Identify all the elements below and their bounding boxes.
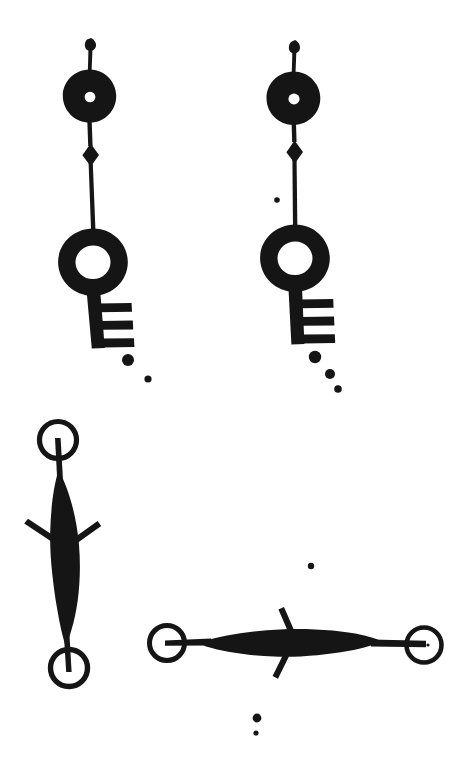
key-bow-ring — [58, 229, 128, 296]
figure-pendant-key-right — [260, 40, 335, 345]
key-bow-ring — [260, 225, 330, 292]
dot-key-right-small — [334, 385, 342, 393]
key-bit-tooth-2 — [100, 321, 133, 330]
finial-rod — [88, 48, 93, 73]
connector-rod — [292, 121, 297, 142]
figure-pendant-key-left — [58, 38, 134, 349]
figure-spindle-vertical — [24, 422, 101, 687]
dot-lower-large — [253, 714, 262, 723]
key-bit-tooth-3 — [102, 338, 135, 347]
dot-key-left-large — [122, 354, 134, 366]
finial-rod — [292, 51, 297, 76]
figure-spindle-horizontal — [150, 607, 442, 679]
dot-lower-small — [253, 730, 258, 735]
dot-key-right-large — [309, 351, 321, 363]
disc-piercing — [85, 92, 96, 102]
dot-key-right-stem — [274, 197, 280, 203]
key-stem — [89, 163, 96, 234]
dot-key-left-small — [144, 375, 151, 382]
key-bit-tooth-1 — [98, 303, 132, 312]
key-bit-tooth-3 — [302, 334, 335, 343]
dot-center-field — [308, 563, 314, 569]
diamond-bead-icon — [82, 144, 99, 167]
key-stem — [292, 160, 297, 230]
lens-body — [50, 470, 80, 646]
key-bit-tooth-1 — [300, 299, 334, 308]
key-bit-tooth-2 — [301, 317, 335, 326]
right-rod — [371, 640, 426, 648]
right-ring-dot — [426, 643, 429, 646]
diamond-bead-icon — [286, 141, 303, 164]
dot-key-right-medium — [325, 369, 335, 379]
symbol-plate-canvas — [0, 0, 459, 772]
illustration-plate: Ink Symbol Plate Four hand-inked black s… — [0, 0, 459, 772]
disc-piercing — [288, 94, 299, 105]
